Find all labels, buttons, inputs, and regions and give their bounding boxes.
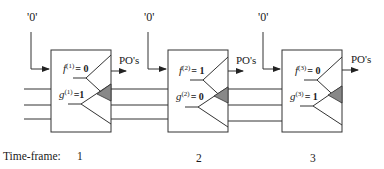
frame-2-input-arrow	[148, 32, 166, 69]
time-frame-diagram: '0' f(1)= 0 g(1)=1 PO's '0'	[0, 0, 384, 169]
frame-1-input-label: '0'	[27, 10, 37, 24]
frame-1-left-inputs	[24, 89, 51, 119]
frame-2-f-label: f(2)= 1	[179, 64, 204, 76]
frame-2: '0' f(2)= 1 g(2)= 0 PO's	[144, 10, 256, 132]
frame-1-f-label: f(1)= 0	[63, 62, 88, 74]
frame-3: '0' f(3)= 0 g(3)= 1 PO's	[258, 10, 371, 132]
frame-3-conflict-region	[328, 86, 342, 103]
timeline-tick-3: 3	[310, 152, 316, 164]
frame-2-to-3-connections	[228, 89, 282, 121]
frame-1-to-2-connections	[111, 89, 168, 119]
timeline-label: Time-frame:	[3, 150, 61, 162]
frame-1-output-label: PO's	[119, 54, 139, 66]
frame-2-input-label: '0'	[144, 10, 154, 24]
timeline-tick-2: 2	[196, 152, 202, 164]
frame-1: '0' f(1)= 0 g(1)=1 PO's	[27, 10, 139, 132]
frame-1-g-label: g(1)=1	[59, 88, 84, 100]
frame-1-input-arrow	[31, 32, 49, 69]
timeline: Time-frame: 1 2 3	[3, 150, 316, 164]
frame-1-conflict-region	[97, 84, 111, 101]
frame-2-conflict-region	[214, 87, 228, 103]
frame-3-output-label: PO's	[351, 53, 371, 65]
frame-3-input-label: '0'	[258, 10, 268, 24]
frame-2-output-label: PO's	[236, 54, 256, 66]
frame-3-input-arrow	[263, 32, 280, 69]
timeline-tick-1: 1	[77, 150, 83, 162]
frame-3-f-label: f(3)= 0	[295, 64, 320, 76]
frame-3-g-label: g(3)= 1	[290, 90, 318, 102]
frame-2-g-label: g(2)= 0	[176, 90, 204, 102]
